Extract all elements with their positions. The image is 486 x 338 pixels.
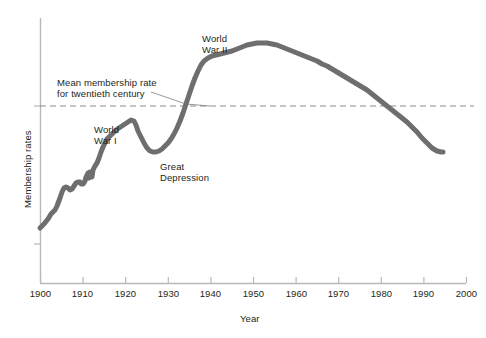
x-tick-label-1950: 1950 <box>237 288 270 299</box>
x-tick-label-1970: 1970 <box>322 288 355 299</box>
x-tick-label-1930: 1930 <box>152 288 185 299</box>
x-axis-ticks <box>41 277 467 283</box>
annotation-mean-line-l2: for twentieth century <box>57 88 145 100</box>
annotation-world-war-2-l1: World <box>202 33 227 45</box>
annotation-world-war-2-l2: War II <box>202 44 228 56</box>
x-axis-title: Year <box>240 313 260 324</box>
annotation-world-war-1-l1: World <box>94 124 119 136</box>
x-tick-label-1940: 1940 <box>194 288 227 299</box>
x-tick-label-1920: 1920 <box>109 288 142 299</box>
annotation-world-war-1-l2: War I <box>94 135 117 147</box>
y-axis-title: Membership rates <box>22 130 33 208</box>
annotation-great-depression-l2: Depression <box>160 172 209 184</box>
annotation-great-depression-l1: Great <box>160 161 184 173</box>
callout-leader-line <box>151 92 210 106</box>
annotation-mean-line-l1: Mean membership rate <box>57 77 157 89</box>
x-tick-label-1980: 1980 <box>365 288 398 299</box>
x-tick-label-2000: 2000 <box>450 288 483 299</box>
x-tick-label-1900: 1900 <box>24 288 57 299</box>
x-tick-label-1990: 1990 <box>407 288 440 299</box>
chart-figure: 1900 1910 1920 1930 1940 1950 1960 1970 … <box>0 0 486 338</box>
x-tick-label-1960: 1960 <box>280 288 313 299</box>
x-tick-label-1910: 1910 <box>66 288 99 299</box>
